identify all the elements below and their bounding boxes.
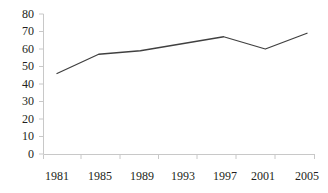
- y-axis-label-0: 0: [8, 148, 34, 160]
- y-axis-label-50: 50: [8, 60, 34, 72]
- y-axis-label-40: 40: [8, 78, 34, 90]
- y-axis-label-60: 60: [8, 43, 34, 55]
- x-axis-label-2005: 2005: [287, 170, 327, 182]
- y-axis-label-70: 70: [8, 25, 34, 37]
- line-chart-figure: 80 70 60 50 40 30 20 10 0 1981 1985 1989…: [0, 0, 328, 193]
- x-axis-label-1989: 1989: [122, 170, 162, 182]
- x-axis-label-1993: 1993: [163, 170, 203, 182]
- y-axis-label-20: 20: [8, 113, 34, 125]
- y-axis-label-10: 10: [8, 130, 34, 142]
- chart-plot-area: [0, 0, 328, 193]
- chart-background: [0, 0, 328, 193]
- x-axis-label-1997: 1997: [205, 170, 245, 182]
- y-axis-label-80: 80: [8, 8, 34, 20]
- x-axis-label-1981: 1981: [37, 170, 77, 182]
- x-axis-label-1985: 1985: [80, 170, 120, 182]
- y-axis-label-30: 30: [8, 95, 34, 107]
- x-axis-label-2001: 2001: [243, 170, 283, 182]
